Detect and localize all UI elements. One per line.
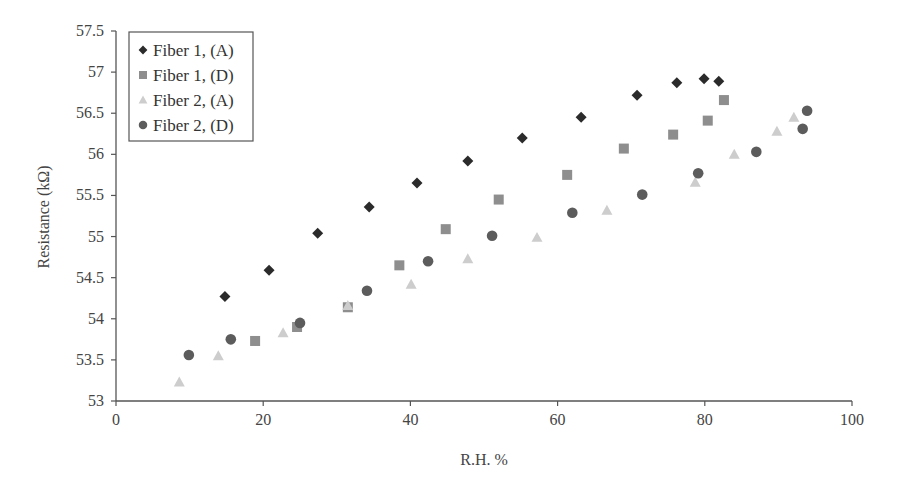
y-tick-label: 54.5: [76, 269, 104, 286]
diamond-marker-icon: [462, 155, 473, 166]
circle-marker-icon: [567, 207, 578, 218]
circle-marker-icon: [802, 105, 813, 116]
y-tick-label: 56.5: [76, 104, 104, 121]
y-tick-label: 54: [88, 310, 104, 327]
x-tick-label: 40: [402, 411, 418, 428]
diamond-marker-icon: [412, 178, 423, 189]
circle-marker-icon: [423, 256, 434, 267]
x-tick-label: 80: [697, 411, 713, 428]
legend-item: Fiber 2, (A): [139, 91, 234, 110]
triangle-marker-icon: [788, 112, 799, 122]
square-marker-icon: [441, 224, 451, 234]
triangle-marker-icon: [174, 377, 185, 387]
y-tick-label: 55.5: [76, 186, 104, 203]
y-tick-label: 53.5: [76, 351, 104, 368]
circle-marker-icon: [362, 286, 373, 297]
legend-label: Fiber 2, (D): [153, 116, 234, 135]
series-fiber-1-d: [250, 95, 729, 346]
circle-marker-icon: [184, 350, 195, 361]
diamond-marker-icon: [264, 265, 275, 276]
data-points: [174, 73, 813, 386]
y-tick-label: 56: [88, 145, 104, 162]
legend-item: Fiber 1, (D): [139, 66, 234, 85]
scatter-chart: 5353.55454.55555.55656.55757.50204060801…: [0, 0, 897, 486]
diamond-marker-icon: [517, 132, 528, 143]
square-marker-icon: [250, 336, 260, 346]
x-tick-label: 60: [550, 411, 566, 428]
diamond-marker-icon: [364, 201, 375, 212]
diamond-marker-icon: [219, 291, 230, 302]
series-fiber-2-a: [174, 112, 800, 387]
y-tick-label: 57: [88, 63, 104, 80]
y-axis-title: Resistance (kΩ): [35, 166, 53, 269]
circle-marker-icon: [797, 124, 808, 135]
circle-marker-icon: [693, 168, 704, 179]
y-tick-label: 57.5: [76, 22, 104, 39]
series-fiber-1-a: [219, 73, 724, 302]
x-axis-title: R.H. %: [460, 451, 508, 468]
circle-marker-icon: [226, 334, 237, 345]
triangle-marker-icon: [771, 126, 782, 136]
diamond-marker-icon: [713, 76, 724, 87]
square-marker-icon: [139, 71, 147, 79]
x-tick-label: 0: [112, 411, 120, 428]
legend-label: Fiber 1, (D): [153, 66, 234, 85]
triangle-marker-icon: [729, 149, 740, 159]
square-marker-icon: [394, 260, 404, 270]
legend-label: Fiber 1, (A): [153, 41, 234, 60]
circle-marker-icon: [637, 189, 648, 200]
circle-marker-icon: [751, 147, 762, 158]
legend: Fiber 1, (A)Fiber 1, (D)Fiber 2, (A)Fibe…: [129, 32, 253, 141]
triangle-marker-icon: [601, 205, 612, 215]
diamond-marker-icon: [632, 90, 643, 101]
y-tick-label: 53: [88, 392, 104, 409]
legend-item: Fiber 2, (D): [139, 116, 234, 135]
diamond-marker-icon: [576, 112, 587, 123]
triangle-marker-icon: [531, 232, 542, 242]
square-marker-icon: [703, 116, 713, 126]
y-tick-label: 55: [88, 228, 104, 245]
legend-item: Fiber 1, (A): [139, 41, 234, 60]
square-marker-icon: [668, 130, 678, 140]
circle-marker-icon: [487, 230, 498, 241]
series-fiber-2-d: [184, 105, 813, 360]
square-marker-icon: [494, 195, 504, 205]
triangle-marker-icon: [462, 253, 473, 263]
x-tick-label: 20: [255, 411, 271, 428]
diamond-marker-icon: [312, 228, 323, 239]
square-marker-icon: [719, 95, 729, 105]
triangle-marker-icon: [213, 350, 224, 360]
diamond-marker-icon: [671, 77, 682, 88]
square-marker-icon: [562, 170, 572, 180]
legend-label: Fiber 2, (A): [153, 91, 234, 110]
circle-marker-icon: [139, 121, 147, 129]
square-marker-icon: [619, 144, 629, 154]
x-tick-label: 100: [840, 411, 864, 428]
circle-marker-icon: [295, 318, 306, 329]
triangle-marker-icon: [278, 327, 289, 337]
diamond-marker-icon: [699, 73, 710, 84]
triangle-marker-icon: [406, 279, 417, 289]
